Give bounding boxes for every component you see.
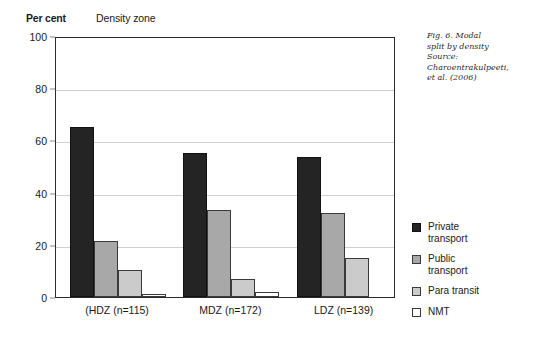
y-axis-tick-mark [50,89,55,90]
y-axis-tick-label: 100 [29,31,47,43]
y-axis-tick-label: 0 [41,292,47,304]
y-axis-tick-label: 60 [35,135,47,147]
plot-area [55,37,395,298]
bar [321,213,345,297]
legend-swatch-icon [412,255,421,264]
x-axis: (HDZ (n=115)MDZ (n=172)LDZ (n=139) [55,304,395,326]
x-axis-tick-label: (HDZ (n=115) [85,304,149,316]
legend-item-label: Para transit [428,285,479,297]
x-axis-title: Density zone [96,12,156,24]
bar [142,294,166,297]
x-axis-tick-label: MDZ (n=172) [199,304,261,316]
figure-container: Per cent Density zone 020406080100 (HDZ … [0,0,550,347]
bars-layer [56,38,394,297]
x-axis-tick-label: LDZ (n=139) [314,304,373,316]
legend: Private transportPublic transportPara tr… [412,221,544,326]
legend-item-label: Public transport [428,253,467,276]
y-axis-tick-mark [50,193,55,194]
bar [94,241,118,297]
bar [297,157,321,297]
y-axis-tick-mark [50,141,55,142]
legend-item-label: NMT [428,306,450,318]
y-axis-tick-mark [50,37,55,38]
bar [345,258,369,297]
caption-line-4: Charoentrakulpeeti, [427,63,547,74]
y-axis-unit-label: Per cent [26,12,66,24]
y-axis-tick-label: 80 [35,83,47,95]
caption-line-3: Source: [427,52,547,63]
caption-line-2: split by density [427,42,547,53]
bar [118,270,142,297]
legend-swatch-icon [412,223,421,232]
figure-caption: Fig. 6. Modal split by density Source: C… [427,31,547,84]
legend-item: Private transport [412,221,544,244]
legend-item: Para transit [412,285,544,297]
legend-item: Public transport [412,253,544,276]
bar [183,153,207,297]
bar [255,292,279,297]
legend-item-label: Private transport [428,221,467,244]
y-axis-tick-label: 40 [35,188,47,200]
y-axis-tick-mark [50,298,55,299]
bar [207,210,231,297]
caption-line-5: et al. (2006) [427,73,547,84]
bar [231,279,255,297]
y-axis: 020406080100 [0,37,55,298]
bar [70,127,94,297]
y-axis-tick-mark [50,245,55,246]
legend-item: NMT [412,306,544,318]
y-axis-tick-label: 20 [35,240,47,252]
legend-swatch-icon [412,287,421,296]
legend-swatch-icon [412,308,421,317]
caption-line-1: Fig. 6. Modal [427,31,547,42]
